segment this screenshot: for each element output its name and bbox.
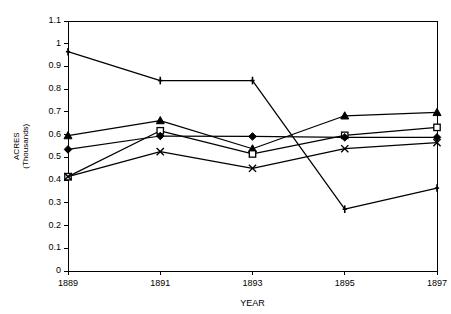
y-tick-label: 0.2 [48, 221, 61, 230]
x-tick-label: 1895 [305, 279, 385, 288]
y-tick-label: 0.6 [48, 130, 61, 139]
x-axis-title: YEAR [28, 298, 451, 308]
y-tick-label: 0.1 [48, 243, 61, 252]
y-tick-label: 0.4 [48, 175, 61, 184]
x-axis-ticks [68, 271, 437, 275]
y-tick-label: 0.7 [48, 107, 61, 116]
y-tick-label: 1.1 [48, 16, 61, 25]
chart-series [64, 108, 441, 152]
chart-series [66, 48, 439, 213]
y-tick-label: 0.9 [48, 61, 61, 70]
chart-plot-area [0, 0, 451, 314]
x-tick-label: 1893 [213, 279, 293, 288]
y-tick-label: 0.3 [48, 198, 61, 207]
y-axis-title-line1: ACRES [12, 109, 21, 183]
y-tick-label: 1 [56, 39, 61, 48]
x-tick-label: 1889 [28, 279, 108, 288]
x-tick-label: 1897 [397, 279, 451, 288]
line-chart: ACRES(Thousands) YEAR 00.10.20.30.40.50.… [0, 0, 451, 314]
y-tick-label: 0.8 [48, 84, 61, 93]
y-axis-title-line2: (Thousands) [21, 109, 30, 183]
y-axis-title: ACRES(Thousands) [12, 109, 30, 183]
x-tick-label: 1891 [120, 279, 200, 288]
y-tick-label: 0 [56, 266, 61, 275]
y-tick-label: 0.5 [48, 152, 61, 161]
